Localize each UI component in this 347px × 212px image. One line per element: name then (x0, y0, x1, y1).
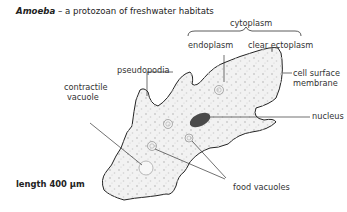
label-cytoplasm: cytoplasm (230, 19, 272, 29)
label-food-vacuoles: food vacuoles (233, 183, 290, 193)
label-pseudopodia: pseudopodia (117, 66, 170, 76)
label-endoplasm: endoplasm (188, 41, 233, 51)
label-nucleus: nucleus (312, 112, 344, 122)
scale-length-label: length 400 μm (16, 179, 85, 189)
label-vacuole: vacuole (67, 93, 99, 103)
label-clear-ectoplasm: clear ectoplasm (248, 41, 313, 51)
label-membrane: membrane (293, 79, 338, 89)
contractile-vacuole-shape (139, 161, 153, 175)
